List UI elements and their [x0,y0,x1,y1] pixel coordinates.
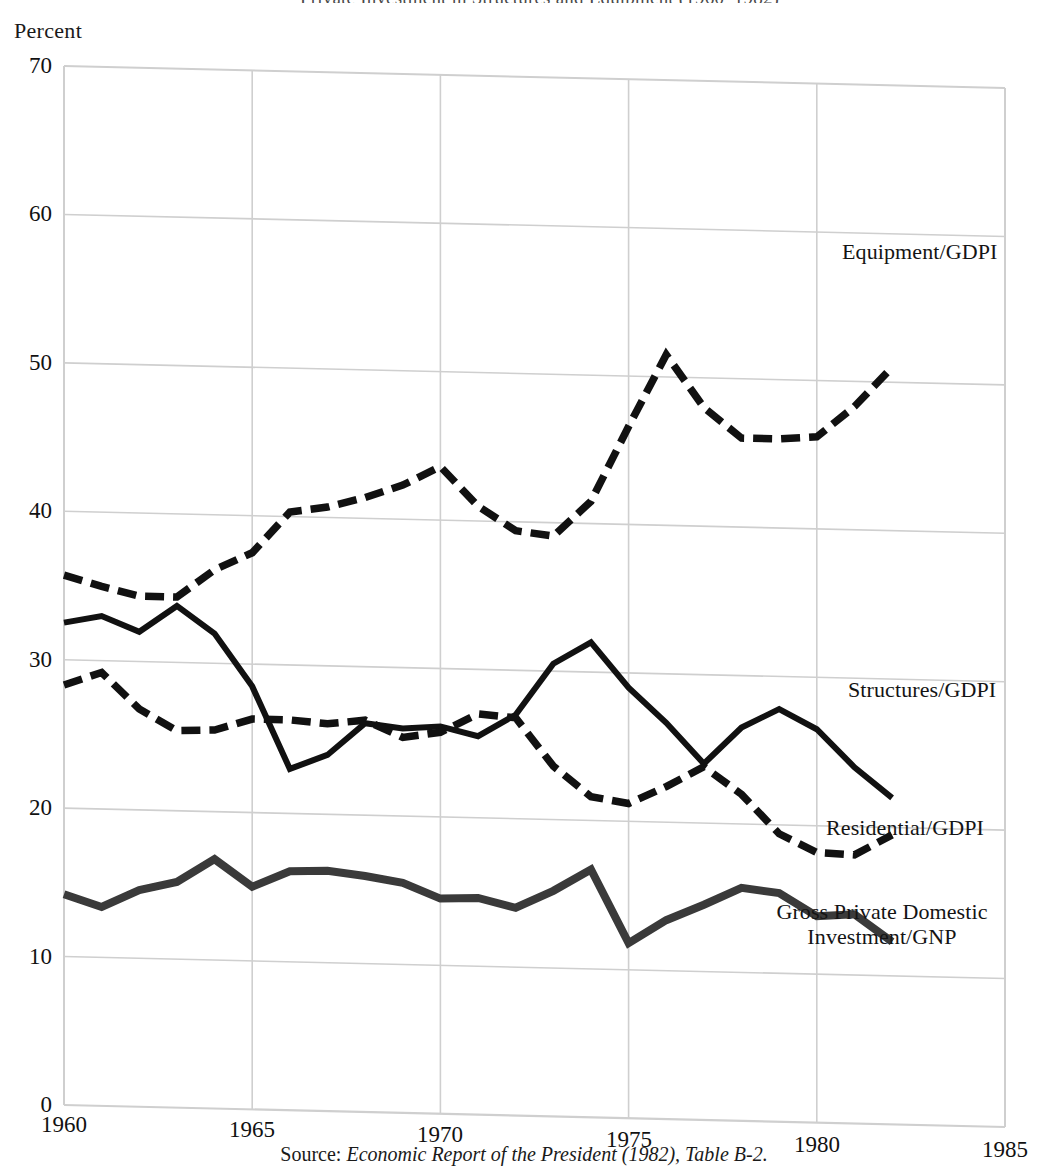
series-label-gpdi-line1: Gross Private Domestic [752,900,1012,925]
series-label-gpdi: Gross Private Domestic Investment/GNP [752,900,1012,949]
series-path-0 [64,355,892,597]
source-note: Source: Economic Report of the President… [0,1143,1048,1166]
plot-canvas [0,0,1048,1175]
series-path-2 [64,672,892,854]
source-label: Source: [280,1143,341,1165]
series-label-gpdi-line2: Investment/GNP [752,925,1012,950]
series-label-structures: Structures/GDPI [848,678,996,703]
chart-figure: Private Investment in Structures and Equ… [0,0,1048,1175]
series-label-residential: Residential/GDPI [826,816,984,841]
data-series-group [64,355,892,943]
series-path-1 [64,606,892,798]
series-label-equipment: Equipment/GDPI [842,240,997,265]
gridlines [64,70,1005,1122]
source-text: Economic Report of the President (1982),… [346,1143,767,1165]
